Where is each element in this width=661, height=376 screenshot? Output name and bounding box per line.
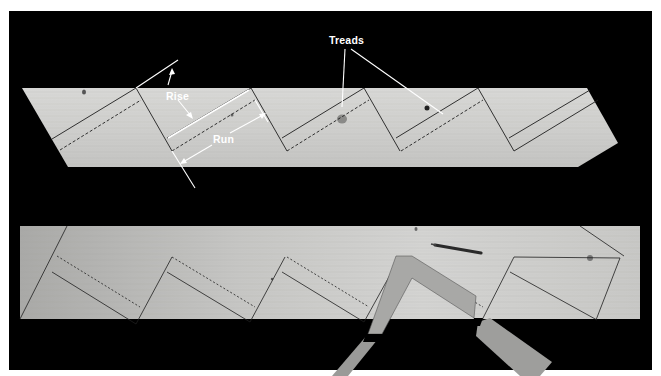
run-label: Run xyxy=(213,133,234,145)
treads-label: Treads xyxy=(329,34,364,46)
rise-label: Rise xyxy=(166,90,189,102)
photo-scene xyxy=(0,0,661,376)
